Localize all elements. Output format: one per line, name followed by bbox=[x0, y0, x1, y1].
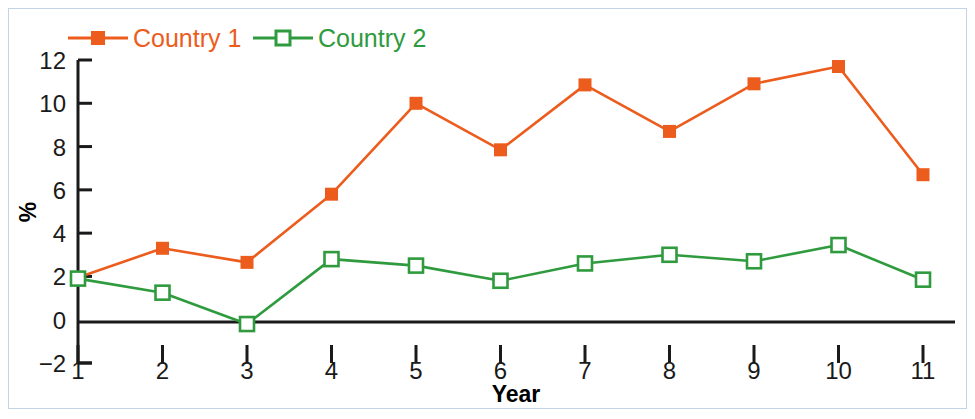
y-axis-tick-label: −2 bbox=[39, 350, 66, 377]
y-axis-tick-label: 0 bbox=[53, 307, 66, 334]
x-axis-tick-label: 10 bbox=[825, 357, 852, 384]
y-axis-title: % bbox=[15, 202, 41, 222]
data-point-marker bbox=[578, 256, 592, 270]
y-axis-tick-labels: −2024681012 bbox=[39, 47, 66, 377]
y-axis-tick-label: 12 bbox=[39, 47, 66, 74]
data-point-marker bbox=[494, 274, 508, 288]
data-point-marker bbox=[410, 97, 423, 110]
x-axis-tick-labels: 1234567891011 bbox=[71, 357, 935, 384]
x-axis-tick-label: 7 bbox=[578, 357, 591, 384]
data-point-marker bbox=[409, 259, 423, 273]
x-axis-tick-label: 5 bbox=[409, 357, 422, 384]
legend-label-country-1: Country 1 bbox=[133, 24, 241, 52]
data-point-marker bbox=[240, 317, 254, 331]
x-axis-tick-label: 1 bbox=[71, 357, 84, 384]
data-point-marker bbox=[156, 242, 169, 255]
chart-series-2 bbox=[71, 238, 930, 331]
y-axis-tick-label: 2 bbox=[53, 263, 66, 290]
data-point-marker bbox=[747, 254, 761, 268]
x-axis-tick-label: 2 bbox=[156, 357, 169, 384]
y-axis-tick-label: 10 bbox=[39, 90, 66, 117]
data-point-marker bbox=[241, 256, 254, 269]
data-point-marker bbox=[748, 77, 761, 90]
y-axis-tick-label: 8 bbox=[53, 134, 66, 161]
data-point-marker bbox=[832, 238, 846, 252]
legend-label-country-2: Country 2 bbox=[318, 24, 426, 52]
y-axis-tick-label: 4 bbox=[53, 220, 66, 247]
data-point-marker bbox=[917, 168, 930, 181]
data-point-marker bbox=[494, 143, 507, 156]
chart-legend: Country 1 Country 2 bbox=[68, 24, 426, 52]
x-axis-tick-label: 9 bbox=[747, 357, 760, 384]
x-axis-tick-label: 3 bbox=[240, 357, 253, 384]
data-point-marker bbox=[832, 60, 845, 73]
y-axis-tick-label: 6 bbox=[53, 177, 66, 204]
data-point-marker bbox=[325, 188, 338, 201]
data-point-marker bbox=[916, 273, 930, 287]
data-point-marker bbox=[663, 248, 677, 262]
legend-marker-country-2 bbox=[276, 31, 290, 45]
legend-entry-country-2: Country 2 bbox=[253, 24, 426, 52]
x-axis-title: Year bbox=[492, 381, 541, 407]
legend-marker-country-1 bbox=[91, 31, 105, 45]
data-point-marker bbox=[579, 78, 592, 91]
chart-axes: −2024681012 1234567891011 bbox=[39, 47, 955, 384]
data-point-marker bbox=[156, 286, 170, 300]
line-chart: Country 1 Country 2 −2024681012 12345678… bbox=[0, 0, 975, 419]
chart-series-1 bbox=[72, 60, 930, 284]
x-axis-tick-label: 6 bbox=[494, 357, 507, 384]
x-axis-tick-label: 4 bbox=[325, 357, 338, 384]
legend-entry-country-1: Country 1 bbox=[68, 24, 241, 52]
y-axis-ticks bbox=[78, 60, 92, 363]
data-point-marker bbox=[663, 125, 676, 138]
figure-root: Country 1 Country 2 −2024681012 12345678… bbox=[0, 0, 975, 419]
data-point-marker bbox=[71, 272, 85, 286]
x-axis-tick-label: 8 bbox=[663, 357, 676, 384]
data-point-marker bbox=[325, 252, 339, 266]
chart-series-layer bbox=[71, 60, 930, 331]
series-line bbox=[78, 66, 923, 277]
x-axis-tick-label: 11 bbox=[911, 357, 936, 384]
